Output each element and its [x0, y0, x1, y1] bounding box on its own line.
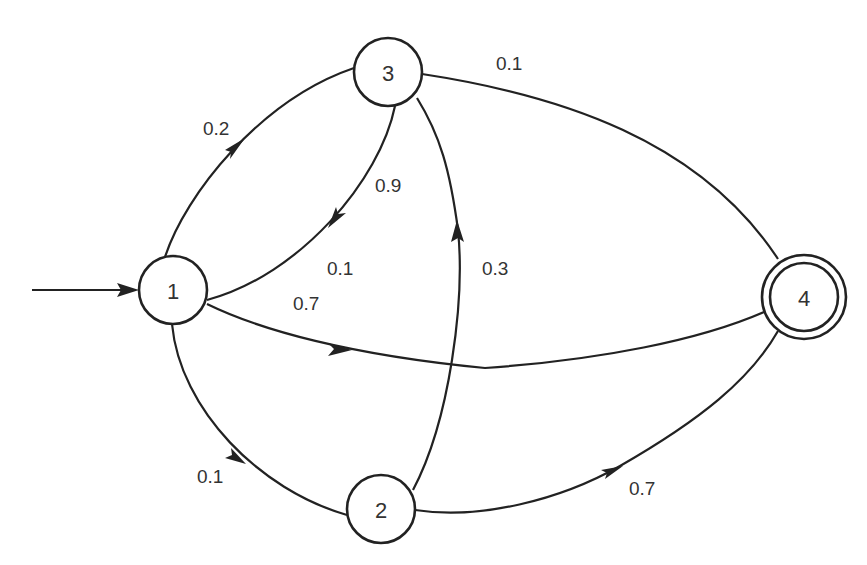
state-label-4: 4: [798, 286, 810, 311]
edge-label-1-to-3: 0.2: [203, 118, 229, 139]
edge-1-to-4: [207, 304, 764, 368]
state-label-1: 1: [167, 279, 179, 304]
state-diagram: 0.2 0.9 0.1 0.7 0.1 0.3 0.1 0.7 1 3 2 4: [0, 0, 867, 565]
edge-2-to-4: [415, 331, 778, 513]
edge-label-1-to-4: 0.7: [293, 293, 319, 314]
edge-label-3-to-1: 0.9: [375, 175, 401, 196]
state-node-1: 1: [139, 256, 207, 324]
state-node-4-accepting: 4: [762, 255, 846, 339]
edge-label-2-to-3: 0.3: [482, 258, 508, 279]
edge-label-2-to-4: 0.7: [629, 478, 655, 499]
arrowhead-icon: [601, 466, 623, 479]
state-node-2: 2: [347, 475, 415, 543]
edge-label-1-mid: 0.1: [327, 258, 353, 279]
state-label-3: 3: [382, 61, 394, 86]
start-arrow: [32, 283, 139, 297]
arrowhead-icon: [328, 343, 352, 356]
arrowhead-icon: [451, 220, 464, 242]
edge-label-1-to-2: 0.1: [197, 466, 223, 487]
arrowhead-icon: [328, 207, 346, 228]
edge-label-3-to-4: 0.1: [496, 53, 522, 74]
edge-2-to-3: [413, 98, 464, 490]
edge-1-to-3: [165, 68, 354, 257]
state-node-3: 3: [354, 38, 422, 106]
state-label-2: 2: [375, 498, 387, 523]
edge-3-to-1: [207, 106, 395, 300]
edge-3-to-4: [422, 74, 778, 259]
